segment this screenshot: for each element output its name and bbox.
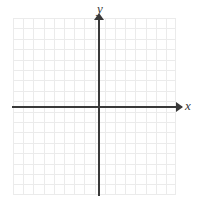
y-axis-label: y bbox=[93, 2, 107, 15]
x-axis-label: x bbox=[185, 99, 199, 112]
y-axis-line bbox=[98, 19, 100, 196]
x-axis-line bbox=[12, 106, 182, 108]
coordinate-plane-figure: y x bbox=[0, 0, 199, 207]
x-axis-arrow-icon bbox=[176, 102, 183, 112]
grid-edge-bottom bbox=[13, 194, 176, 195]
